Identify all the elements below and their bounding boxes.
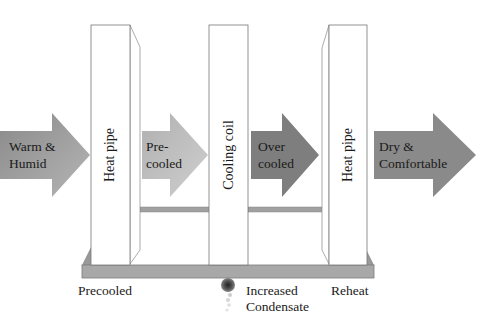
label-condensate: Increased Condensate	[246, 283, 309, 315]
connector-bar-left	[140, 207, 210, 212]
label-line: Condensate	[246, 299, 309, 315]
arrow-line: Dry &	[379, 138, 447, 155]
panel-label-cooling-coil: Cooling coil	[221, 114, 237, 196]
condensate-drain-icon	[221, 278, 235, 312]
arrow-line: Warm &	[9, 138, 56, 155]
panel-label-heat-pipe-left: Heat pipe	[102, 119, 118, 191]
label-line: Increased	[246, 283, 309, 299]
arrow-label-over-cooled: Over cooled	[258, 138, 294, 172]
arrow-label-warm-humid: Warm & Humid	[9, 138, 56, 172]
arrow-line: Over	[258, 138, 294, 155]
label-precooled: Precooled	[78, 283, 132, 299]
panel-label-heat-pipe-right: Heat pipe	[340, 119, 356, 191]
arrow-line: cooled	[146, 155, 182, 172]
label-reheat: Reheat	[331, 283, 368, 299]
arrow-line: Pre-	[146, 138, 182, 155]
connector-bar-right	[248, 207, 323, 212]
arrow-label-dry-comfortable: Dry & Comfortable	[379, 138, 447, 172]
arrow-line: Comfortable	[379, 155, 447, 172]
arrow-label-pre-cooled: Pre- cooled	[146, 138, 182, 172]
arrow-line: Humid	[9, 155, 56, 172]
arrow-line: cooled	[258, 155, 294, 172]
